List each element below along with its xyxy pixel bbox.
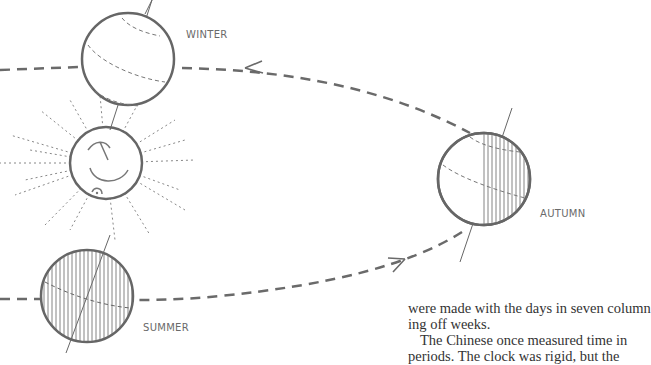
sun bbox=[70, 127, 142, 199]
earth-summer bbox=[41, 235, 133, 353]
body-text-line-2: ing off weeks. bbox=[408, 316, 490, 333]
orbit-arrow-top bbox=[245, 61, 263, 73]
body-text-line-1: were made with the days in seven column bbox=[408, 300, 651, 317]
body-text-line-4: periods. The clock was rigid, but the bbox=[408, 348, 620, 365]
label-autumn: AUTUMN bbox=[540, 208, 586, 219]
body-text-line-3: The Chinese once measured time in bbox=[420, 332, 627, 349]
orbit-arrow-bottom bbox=[388, 258, 405, 272]
label-summer: SUMMER bbox=[143, 322, 189, 333]
earth-winter bbox=[82, 0, 174, 130]
earth-autumn bbox=[438, 108, 530, 262]
label-winter: WINTER bbox=[186, 29, 228, 40]
